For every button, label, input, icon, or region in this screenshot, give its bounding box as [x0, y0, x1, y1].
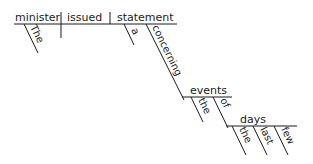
events-word: events — [190, 84, 227, 97]
subject-word: minister — [15, 11, 61, 24]
preposition-word-of: of — [218, 96, 232, 110]
modifier-word-the: The — [28, 22, 46, 44]
object-word: statement — [117, 11, 174, 24]
sentence-diagram: minister issued statement The a concerni… — [0, 0, 313, 164]
verb-word: issued — [67, 11, 102, 24]
days-word: days — [240, 113, 266, 126]
preposition-word-concerning: concerning — [150, 23, 184, 78]
modifier-word-a: a — [129, 26, 142, 36]
